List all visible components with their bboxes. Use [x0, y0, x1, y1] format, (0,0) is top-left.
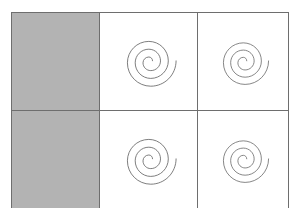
cell-r1c1[interactable]	[12, 13, 100, 111]
cell-r1c2[interactable]	[100, 13, 198, 111]
cell-r1c3[interactable]	[198, 13, 289, 111]
grid-row-2	[12, 111, 289, 209]
grid-body	[12, 13, 289, 209]
cell-r2c1[interactable]	[12, 111, 100, 209]
figure-canvas	[0, 0, 299, 208]
cell-r2c3[interactable]	[198, 111, 289, 209]
cell-r2c2[interactable]	[100, 111, 198, 209]
spiral-icon	[198, 111, 288, 208]
spiral-icon	[100, 13, 197, 110]
spiral-icon	[100, 111, 197, 208]
grid-table	[11, 12, 289, 208]
spiral-icon	[198, 13, 288, 110]
grid-row-1	[12, 13, 289, 111]
